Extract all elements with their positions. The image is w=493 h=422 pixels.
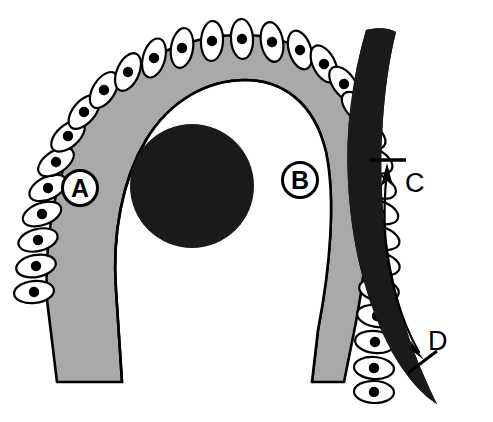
label-b: B [283,163,318,198]
label-d-text: D [428,326,448,356]
label-a: A [63,171,98,206]
label-a-text: A [71,174,89,202]
label-b-text: B [291,166,309,194]
figure-root: A B C D [0,0,493,422]
anatomical-diagram: A B C D [0,0,493,422]
label-c-text: C [405,168,425,198]
dark-core-mass [130,124,254,248]
